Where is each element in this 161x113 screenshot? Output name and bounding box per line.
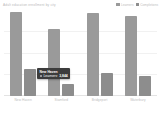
plot-area [4,9,157,96]
bar-learners-3[interactable] [125,16,137,96]
x-axis-labels: New Haven Stamford Bridgeport Waterbury [4,98,157,108]
bar-completions-1[interactable] [62,84,74,96]
chart-title: Adult education enrollment by city [3,3,56,7]
x-tick-3: Waterbury [119,98,157,108]
legend-item-learners[interactable]: Learners [116,3,133,7]
legend-item-completions[interactable]: Completions [136,3,159,7]
bar-group-3 [119,9,157,96]
tooltip-swatch-icon [40,75,43,78]
bar-group-2 [81,9,119,96]
bar-completions-3[interactable] [139,76,151,96]
bar-groups [4,9,157,96]
legend-label-completions: Completions [140,3,158,7]
bar-group-0 [4,9,42,96]
tooltip-metric-value: 3,844 [59,74,68,78]
chart-legend: Learners Completions [116,3,158,7]
bar-completions-0[interactable] [24,69,36,96]
legend-swatch-completions [136,3,140,6]
bar-learners-1[interactable] [48,29,60,96]
x-tick-2: Bridgeport [81,98,119,108]
chart-widget: Adult education enrollment by city Learn… [0,0,161,113]
hover-tooltip: New Haven Learners: 3,844 [37,68,70,79]
bar-completions-2[interactable] [101,73,113,96]
bar-group-1 [42,9,80,96]
bar-learners-2[interactable] [87,13,99,96]
x-tick-1: Stamford [42,98,80,108]
x-tick-0: New Haven [4,98,42,108]
legend-swatch-learners [116,3,120,6]
legend-label-learners: Learners [121,3,134,7]
bar-learners-0[interactable] [10,12,22,96]
tooltip-row: Learners: 3,844 [40,74,68,78]
tooltip-metric-label: Learners: [43,74,57,78]
chart-header: Adult education enrollment by city Learn… [0,0,161,9]
